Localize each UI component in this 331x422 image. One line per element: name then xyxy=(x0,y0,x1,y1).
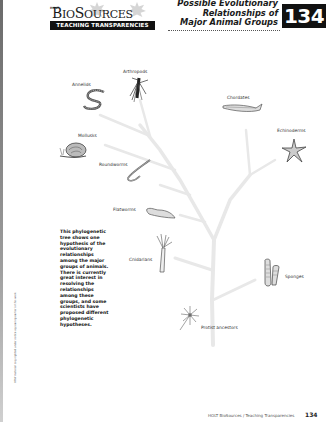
cnidarian-hydra-icon xyxy=(154,232,174,274)
arthropod-insect-icon xyxy=(128,74,150,104)
protist-ancestor-icon xyxy=(178,305,200,331)
label-flatworms: Flatworms xyxy=(113,207,136,212)
annelid-worm-icon xyxy=(80,88,110,112)
copyright-side-note: HRW material copyrighted under notice ap… xyxy=(14,383,20,422)
label-annelids: Annelids xyxy=(72,82,91,87)
footer-text: HOLT BioSources / Teaching Transparencie… xyxy=(208,413,294,418)
label-sponges: Sponges xyxy=(285,274,304,279)
label-echinoderms: Echinoderms xyxy=(277,128,305,133)
chordate-fish-icon xyxy=(222,102,264,114)
roundworm-icon xyxy=(124,158,152,184)
flatworm-icon xyxy=(145,206,177,220)
label-roundworms: Roundworms xyxy=(99,162,127,167)
echinoderm-starfish-icon xyxy=(281,138,307,164)
label-chordates: Chordates xyxy=(227,95,249,100)
mollusk-snail-icon xyxy=(58,140,88,160)
label-arthropods: Arthropods xyxy=(123,69,147,74)
tree-description: This phylogenetic tree shows one hypothe… xyxy=(60,229,110,328)
label-cnidarians: Cnidarians xyxy=(129,257,152,262)
footer-page-number: 134 xyxy=(305,411,318,418)
label-mollusks: Mollusks xyxy=(78,133,97,138)
sponge-icon xyxy=(262,257,284,289)
label-protist-ancestors: Protist ancestors xyxy=(201,325,238,330)
copyright-text: HRW material copyrighted under notice ap… xyxy=(14,292,17,383)
